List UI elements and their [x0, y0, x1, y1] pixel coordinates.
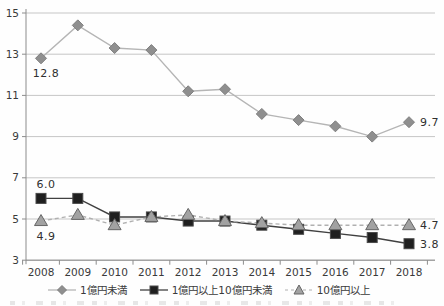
legend-item-series-2: 10億円以上 — [285, 282, 370, 297]
svg-text:2014: 2014 — [248, 266, 275, 278]
chart-legend: 1億円未満 1億円以上10億円未満 10億円以上 — [0, 282, 418, 297]
svg-text:3: 3 — [12, 254, 19, 266]
svg-text:7: 7 — [12, 171, 19, 183]
svg-text:2008: 2008 — [28, 266, 55, 278]
series-markers-0 — [36, 20, 415, 142]
svg-text:13: 13 — [6, 48, 19, 60]
svg-text:12.8: 12.8 — [33, 67, 60, 80]
svg-text:5: 5 — [12, 213, 19, 225]
svg-text:9.7: 9.7 — [420, 116, 439, 129]
svg-text:2017: 2017 — [359, 266, 386, 278]
legend-label-series-1: 1億円以上10億円未満 — [172, 282, 272, 297]
svg-text:4.7: 4.7 — [420, 219, 439, 232]
triangle-marker-icon — [285, 284, 313, 296]
square-marker-icon — [140, 284, 168, 296]
series-line-0 — [41, 25, 409, 136]
svg-text:2010: 2010 — [101, 266, 128, 278]
svg-text:2012: 2012 — [175, 266, 202, 278]
svg-text:9: 9 — [12, 130, 19, 142]
svg-text:11: 11 — [6, 89, 19, 101]
x-axis: 2008200920102011201220132014201520162017… — [23, 260, 435, 278]
svg-text:2013: 2013 — [212, 266, 239, 278]
y-axis: 3579111315 — [6, 7, 26, 266]
legend-item-series-0: 1億円未満 — [48, 282, 127, 297]
legend-label-series-0: 1億円未満 — [80, 282, 127, 297]
point-labels: 12.89.76.03.84.94.7 — [33, 67, 439, 250]
svg-text:2018: 2018 — [396, 266, 423, 278]
chart-plot-area: 3579111315200820092010201120122013201420… — [0, 0, 444, 306]
svg-text:2016: 2016 — [322, 266, 349, 278]
svg-text:3.8: 3.8 — [420, 238, 439, 251]
legend-label-series-2: 10億円以上 — [317, 282, 370, 297]
svg-text:2011: 2011 — [138, 266, 165, 278]
legend-item-series-1: 1億円以上10億円未満 — [140, 282, 272, 297]
svg-text:2009: 2009 — [64, 266, 91, 278]
diamond-marker-icon — [48, 284, 76, 296]
line-chart-figure: 3579111315200820092010201120122013201420… — [0, 0, 444, 306]
svg-text:6.0: 6.0 — [37, 178, 56, 191]
svg-text:15: 15 — [6, 7, 19, 19]
svg-text:2015: 2015 — [285, 266, 312, 278]
clipped-caption-artifact — [10, 301, 404, 305]
svg-text:4.9: 4.9 — [37, 230, 56, 243]
